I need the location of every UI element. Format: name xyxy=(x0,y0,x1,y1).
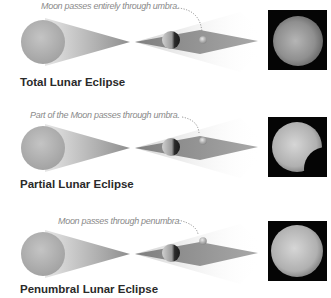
sun-icon xyxy=(21,232,65,276)
penumbral-caption: Moon passes through penumbra. xyxy=(58,216,181,226)
earth-icon xyxy=(162,244,180,262)
panel-total-lunar-eclipse: Moon passes entirely through umbra. Tota… xyxy=(0,0,331,100)
eclipsed-moon-photo-icon xyxy=(273,16,323,66)
penumbral-moon-photo-icon xyxy=(271,225,323,277)
earth-icon xyxy=(162,138,180,156)
earth-icon xyxy=(162,31,180,49)
sun-icon xyxy=(21,126,65,170)
penumbral-eclipse-photo xyxy=(268,221,327,281)
total-eclipse-photo xyxy=(268,10,327,70)
moon-icon xyxy=(199,237,207,245)
partial-caption: Part of the Moon passes through umbra. xyxy=(30,110,180,120)
panel-penumbral-lunar-eclipse: Moon passes through penumbra. Penumbral … xyxy=(0,198,331,298)
total-title: Total Lunar Eclipse xyxy=(20,76,125,88)
moon-icon xyxy=(199,137,207,145)
total-caption: Moon passes entirely through umbra. xyxy=(41,1,179,11)
partial-title: Partial Lunar Eclipse xyxy=(20,178,134,190)
penumbral-title: Penumbral Lunar Eclipse xyxy=(20,283,158,295)
partial-eclipse-photo xyxy=(268,117,327,177)
moon-icon xyxy=(199,36,207,44)
panel-partial-lunar-eclipse: Part of the Moon passes through umbra. P… xyxy=(0,100,331,200)
sun-icon xyxy=(21,20,65,64)
